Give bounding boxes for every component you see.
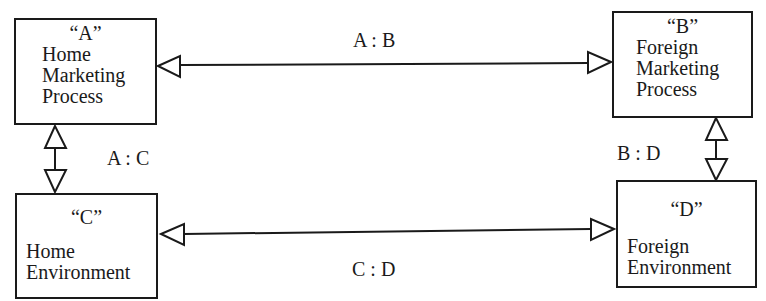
box-label-line: Process — [636, 79, 751, 100]
box-home-environment: “C” Home Environment — [15, 193, 158, 299]
box-foreign-marketing-process: “B” Foreign Marketing Process — [612, 11, 753, 118]
arrowhead-down-icon — [706, 159, 727, 180]
diagram-canvas: “A” Home Marketing Process “B” Foreign M… — [0, 0, 766, 301]
box-label-line: Environment — [627, 257, 755, 278]
box-code: “D” — [618, 199, 755, 220]
box-label-line: Marketing — [42, 65, 155, 86]
arrowhead-right-icon — [591, 219, 614, 240]
relation-label-a-b: A : B — [353, 30, 395, 50]
box-label-line: Foreign — [636, 37, 751, 58]
arrowhead-up-icon — [706, 118, 727, 140]
connector-a-b — [158, 52, 611, 77]
relation-label-c-d: C : D — [352, 259, 395, 279]
arrowhead-up-icon — [45, 126, 66, 148]
arrowhead-left-icon — [161, 224, 184, 245]
connector-c-d — [161, 219, 614, 245]
connector-a-c — [45, 126, 66, 192]
box-label-line: Process — [42, 86, 155, 107]
box-code: “C” — [17, 207, 156, 228]
box-label-line: Marketing — [636, 58, 751, 79]
box-label-line: Home — [42, 44, 155, 65]
relation-label-b-d: B : D — [617, 143, 660, 163]
relation-label-a-c: A : C — [107, 148, 149, 168]
arrowhead-down-icon — [45, 170, 66, 192]
box-code: “B” — [614, 16, 751, 37]
arrowhead-right-icon — [588, 52, 611, 73]
box-label-line: Foreign — [627, 236, 755, 257]
connector-b-d — [706, 118, 727, 180]
box-label-line: Home — [26, 241, 156, 262]
box-home-marketing-process: “A” Home Marketing Process — [14, 18, 157, 125]
arrowhead-left-icon — [158, 56, 180, 77]
box-code: “A” — [16, 23, 155, 44]
box-foreign-environment: “D” Foreign Environment — [616, 180, 757, 288]
box-label-line: Environment — [26, 262, 156, 283]
